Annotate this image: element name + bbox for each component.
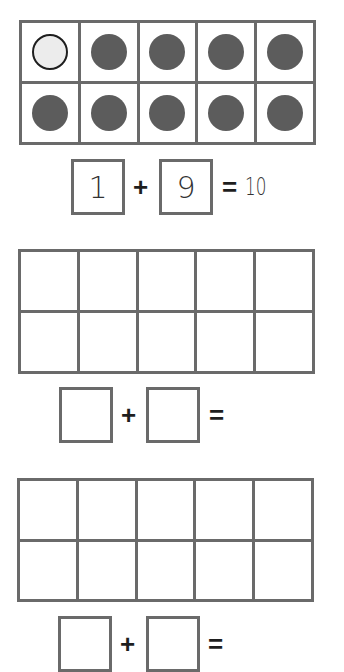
ten-frame-cell[interactable] [81,23,137,81]
ten-frame-cell[interactable] [198,23,254,81]
addend-1-box[interactable]: 1 [71,159,125,215]
equals-sign: = [222,174,237,200]
filled-counter-icon [91,95,127,131]
filled-counter-icon [149,34,185,70]
ten-frame-cell[interactable] [257,23,313,81]
ten-frame-cell[interactable] [140,84,196,142]
filled-counter-icon [208,34,244,70]
ten-frame-cell[interactable] [198,84,254,142]
ten-frame-cell[interactable] [197,252,253,310]
ten-frame-cell[interactable] [21,252,77,310]
ten-frame-cell[interactable] [255,542,311,600]
ten-frame-cell[interactable] [80,252,136,310]
plus-sign: + [120,631,135,657]
ten-frame-cell[interactable] [79,481,135,539]
ten-frame-2 [18,249,315,374]
plus-sign: + [133,174,148,200]
sum-value: 10 [245,175,266,199]
ten-frame-cell[interactable] [140,23,196,81]
addend-2-box[interactable] [146,616,200,672]
filled-counter-icon [267,34,303,70]
equals-sign: = [208,631,223,657]
filled-counter-icon [149,95,185,131]
ten-frame-cell[interactable] [21,313,77,371]
ten-frame-cell[interactable] [20,542,76,600]
ten-frame-cell[interactable] [256,313,312,371]
ten-frame-cell[interactable] [139,252,195,310]
ten-frame-cell[interactable] [81,84,137,142]
ten-frame-cell[interactable] [255,481,311,539]
ten-frame-cell[interactable] [20,481,76,539]
addend-2-box[interactable] [146,387,200,443]
ten-frame-cell[interactable] [22,84,78,142]
ten-frame-cell[interactable] [138,481,194,539]
empty-counter-icon [32,34,68,70]
ten-frame-cell[interactable] [196,542,252,600]
filled-counter-icon [208,95,244,131]
ten-frame-cell[interactable] [196,481,252,539]
ten-frame-cell[interactable] [79,542,135,600]
addend-2-box[interactable]: 9 [159,159,213,215]
ten-frame-cell[interactable] [197,313,253,371]
addend-2-value: 9 [176,170,195,205]
addend-1-box[interactable] [58,616,112,672]
sum-value[interactable] [231,632,245,652]
ten-frame-cell[interactable] [138,542,194,600]
ten-frame-cell[interactable] [256,252,312,310]
sum-value[interactable] [232,403,246,423]
ten-frame-3 [17,478,314,602]
ten-frame-1 [19,20,316,145]
equals-sign: = [209,402,224,428]
filled-counter-icon [267,95,303,131]
ten-frame-cell[interactable] [257,84,313,142]
addend-1-value: 1 [88,170,107,205]
plus-sign: + [121,402,136,428]
ten-frame-cell[interactable] [80,313,136,371]
ten-frame-cell[interactable] [139,313,195,371]
filled-counter-icon [91,34,127,70]
ten-frame-cell[interactable] [22,23,78,81]
filled-counter-icon [32,95,68,131]
addend-1-box[interactable] [59,387,113,443]
